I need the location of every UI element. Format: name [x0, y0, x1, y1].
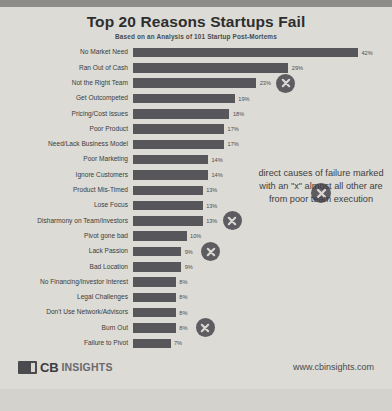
bar [133, 247, 181, 257]
bar [133, 63, 288, 73]
value-label: 8% [179, 294, 187, 300]
chart-row: Pivot gone bad10% [0, 229, 392, 244]
value-label: 18% [233, 111, 244, 117]
bar [133, 277, 176, 287]
value-label: 23% [260, 80, 271, 86]
x-icon [227, 216, 237, 226]
bar [133, 231, 187, 241]
scan-artifact-top [0, 0, 392, 7]
cb-insights-logo: CB INSIGHTS [18, 360, 113, 375]
category-label: Lose Focus [0, 202, 133, 209]
x-icon [200, 323, 210, 333]
footer: CB INSIGHTS www.cbinsights.com [0, 345, 392, 389]
category-label: Get Outcompeted [0, 95, 133, 102]
chart-row: No Market Need42% [0, 45, 392, 60]
bar [133, 201, 203, 211]
category-label: Need/Lack Business Model [0, 141, 133, 148]
logo-cb-text: CB [40, 360, 58, 375]
bar-track: 13% [133, 213, 392, 228]
value-label: 13% [206, 203, 217, 209]
value-label: 13% [206, 218, 217, 224]
direct-cause-x-marker [196, 318, 215, 337]
bar [133, 308, 176, 318]
chart-row: Poor Product17% [0, 121, 392, 136]
direct-cause-x-marker [223, 211, 242, 230]
value-label: 9% [185, 249, 193, 255]
x-icon [206, 247, 216, 257]
bar [133, 124, 224, 134]
chart-row: Not the Right Team23% [0, 76, 392, 91]
infographic-page: Top 20 Reasons Startups Fail Based on an… [0, 7, 392, 389]
bar [133, 140, 224, 150]
bar-track: 8% [133, 274, 392, 289]
value-label: 17% [228, 141, 239, 147]
value-label: 8% [179, 325, 187, 331]
chart-row: No Financing/Investor Interest8% [0, 274, 392, 289]
category-label: Not the Right Team [0, 80, 133, 87]
chart-row: Pricing/Cost Issues18% [0, 106, 392, 121]
chart-row: Poor Marketing14% [0, 152, 392, 167]
value-label: 14% [212, 157, 223, 163]
chart-row: Bad Location9% [0, 259, 392, 274]
bar-track: 19% [133, 91, 392, 106]
logo-insights-text: INSIGHTS [61, 361, 112, 373]
bar [133, 94, 235, 104]
bar [133, 186, 203, 196]
category-label: Disharmony on Team/Investors [0, 218, 133, 225]
value-label: 42% [362, 50, 373, 56]
chart-row: Lack Passion9% [0, 244, 392, 259]
chart-row: Get Outcompeted19% [0, 91, 392, 106]
value-label: 19% [238, 96, 249, 102]
chart-row: Ran Out of Cash29% [0, 60, 392, 75]
category-label: Pivot gone bad [0, 233, 133, 240]
x-icon [281, 78, 291, 88]
page-title: Top 20 Reasons Startups Fail [0, 13, 392, 31]
category-label: Ran Out of Cash [0, 65, 133, 72]
chart-row: Burn Out8% [0, 320, 392, 335]
bar-track: 17% [133, 121, 392, 136]
bar [133, 109, 229, 119]
bar-track: 8% [133, 305, 392, 320]
annotation-text: direct causes of failure marked with an … [252, 167, 390, 206]
value-label: 29% [292, 65, 303, 71]
bar-track: 10% [133, 229, 392, 244]
bar [133, 48, 358, 58]
bar-track: 9% [133, 259, 392, 274]
value-label: 10% [190, 233, 201, 239]
scan-artifact-bottom [0, 389, 392, 411]
bar-track: 8% [133, 320, 392, 335]
chart-row: Legal Challenges8% [0, 290, 392, 305]
category-label: Bad Location [0, 264, 133, 271]
value-label: 17% [228, 126, 239, 132]
category-label: Legal Challenges [0, 294, 133, 301]
direct-cause-x-marker [276, 74, 295, 93]
category-label: Ignore Customers [0, 172, 133, 179]
category-label: Burn Out [0, 325, 133, 332]
bar [133, 262, 181, 272]
value-label: 8% [179, 279, 187, 285]
direct-cause-x-marker [201, 242, 220, 261]
category-label: Pricing/Cost Issues [0, 111, 133, 118]
bar [133, 155, 208, 165]
bar-track: 8% [133, 290, 392, 305]
category-label: No Financing/Investor Interest [0, 279, 133, 286]
bar [133, 170, 208, 180]
bar-track: 23% [133, 76, 392, 91]
bar [133, 216, 203, 226]
page-subtitle: Based on an Analysis of 101 Startup Post… [0, 33, 392, 40]
chart-row: Don't Use Network/Advisors8% [0, 305, 392, 320]
bar [133, 293, 176, 303]
value-label: 13% [206, 187, 217, 193]
category-label: Poor Product [0, 126, 133, 133]
bar-track: 14% [133, 152, 392, 167]
bar-track: 42% [133, 45, 392, 60]
value-label: 14% [212, 172, 223, 178]
category-label: Lack Passion [0, 248, 133, 255]
category-label: Poor Marketing [0, 156, 133, 163]
bar-track: 29% [133, 60, 392, 75]
bar [133, 323, 176, 333]
value-label: 9% [185, 264, 193, 270]
value-label: 8% [179, 310, 187, 316]
bar-track: 17% [133, 137, 392, 152]
category-label: No Market Need [0, 49, 133, 56]
